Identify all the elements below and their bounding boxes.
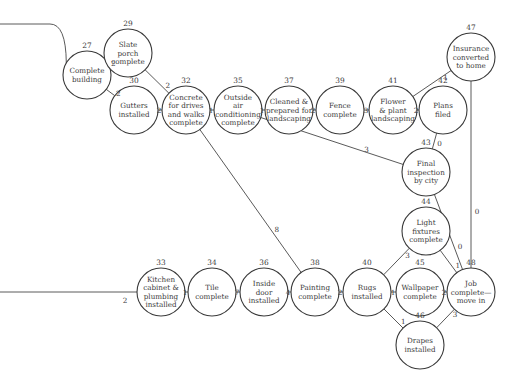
- edge-weight-32-to-35: 1: [209, 106, 214, 115]
- edge-weight-35-to-37: 1: [260, 106, 265, 115]
- node-36: 36Insidedoorinstalled: [240, 258, 288, 316]
- edge-weight-39-to-41: 3: [364, 106, 369, 115]
- edge-weight-45-to-48: 2: [442, 288, 447, 297]
- node-label-line: complete: [221, 118, 254, 127]
- node-number: 30: [129, 76, 139, 85]
- node-number: 40: [362, 258, 372, 267]
- edge-weight-40-to-44: 3: [405, 251, 410, 260]
- node-number: 35: [233, 76, 243, 85]
- node-number: 48: [466, 258, 476, 267]
- edge-44-to-48: [440, 250, 457, 272]
- edge-weight-40-to-45: 1: [391, 288, 396, 297]
- node-number: 47: [466, 23, 476, 32]
- node-number: 39: [335, 76, 345, 85]
- edge-weight-44-to-48: 1: [456, 261, 461, 270]
- node-number: 45: [415, 258, 425, 267]
- edge-weight-40-to-46: 1: [401, 317, 406, 326]
- node-number: 38: [310, 258, 320, 267]
- edge-32-to-38: [200, 130, 301, 273]
- edge-weight-30-to-32: 2: [157, 106, 162, 115]
- node-label-line: by city: [414, 176, 439, 185]
- node-42: 42Plansfiled: [419, 76, 467, 134]
- node-38: 38Paintingcomplete: [291, 258, 339, 316]
- node-label-line: landscaping: [371, 114, 415, 123]
- node-33: 33Kitchencabinet &plumbinginstalled: [137, 258, 185, 316]
- edge-weight-32-to-38: 8: [274, 225, 279, 234]
- node-43: 43Finalinspectionby city: [402, 138, 450, 196]
- edge-42-to-43: [432, 133, 436, 149]
- node-label-line: complete: [403, 292, 436, 301]
- edge-27-to-30: [106, 89, 115, 95]
- project-network-diagram: 27Completebuilding29Slateporchcomplete30…: [0, 0, 524, 380]
- node-label-line: landscaping: [267, 114, 311, 123]
- node-number: 34: [207, 258, 217, 267]
- node-47: 47Insuranceconvertedto home: [447, 23, 495, 81]
- node-48: 48Jobcomplete—move in: [447, 258, 495, 316]
- node-number: 43: [421, 138, 431, 147]
- node-label-line: to home: [456, 61, 486, 70]
- node-39: 39Fencecomplete: [316, 76, 364, 134]
- node-label-line: complete: [323, 110, 356, 119]
- nodes: 27Completebuilding29Slateporchcomplete30…: [63, 19, 495, 369]
- node-number: 46: [415, 311, 425, 320]
- node-number: 27: [82, 41, 92, 50]
- node-number: 37: [284, 76, 294, 85]
- node-number: 44: [421, 197, 431, 206]
- node-34: 34Tilecomplete: [188, 258, 236, 316]
- node-number: 32: [181, 76, 190, 85]
- node-label-line: filed: [435, 110, 451, 119]
- edge-weight-27-to-30: 2: [116, 89, 121, 98]
- node-label-line: installed: [404, 345, 436, 354]
- node-40: 40Rugsinstalled: [343, 258, 391, 316]
- edge-weight-42-to-43: 0: [437, 139, 442, 148]
- node-44: 44Lightfixturescomplete: [402, 197, 450, 255]
- node-label-line: installed: [145, 300, 177, 309]
- edge-46-to-48: [437, 309, 455, 327]
- node-45: 45Wallpapercomplete: [396, 258, 444, 316]
- edge-weight-34-to-36: 7: [235, 288, 240, 297]
- edge-weight-43-to-48: 0: [458, 242, 463, 251]
- node-label-line: installed: [248, 296, 280, 305]
- node-label-line: complete: [169, 118, 202, 127]
- edge-weight-38-to-40: 2: [338, 288, 343, 297]
- node-label-line: complete: [111, 57, 144, 66]
- node-label-line: complete: [298, 292, 331, 301]
- node-35: 35Outsideairconditioningcomplete: [214, 76, 262, 134]
- edge-weight-37-to-39: 2: [311, 106, 316, 115]
- edge-weight-27-to-29: 2: [111, 59, 116, 68]
- edge-weight-46-to-48: 3: [453, 310, 458, 319]
- node-number: 29: [123, 19, 133, 28]
- node-label-line: installed: [351, 292, 383, 301]
- edge-weight-35-to-43: 3: [364, 145, 369, 154]
- node-label-line: building: [72, 75, 102, 84]
- edge-weight-33-to-34: 1: [183, 288, 188, 297]
- edge-weight-29-to-32: 2: [165, 81, 170, 90]
- node-41: 41Flower& plantlandscaping: [369, 76, 417, 134]
- node-label-line: installed: [118, 110, 150, 119]
- node-29: 29Slateporchcomplete: [104, 19, 152, 77]
- node-label-line: complete: [409, 235, 442, 244]
- node-number: 36: [259, 258, 269, 267]
- edge-weight-36-to-38: 4: [286, 288, 291, 297]
- edge-weight-47-to-48: 0: [475, 207, 480, 216]
- edge-weight-41-to-47: 1: [443, 73, 448, 82]
- edge-start-to-27: [0, 24, 66, 63]
- edge-weight-41-to-42: 2: [414, 106, 419, 115]
- node-37: 37Cleaned &prepared forlandscaping: [265, 76, 313, 134]
- node-number: 41: [388, 76, 397, 85]
- node-30: 30Guttersinstalled: [110, 76, 158, 134]
- node-label-line: complete: [195, 292, 228, 301]
- node-label-line: move in: [457, 296, 486, 305]
- edge-weight-start-bottom-to-33: 2: [123, 296, 128, 305]
- node-number: 33: [156, 258, 166, 267]
